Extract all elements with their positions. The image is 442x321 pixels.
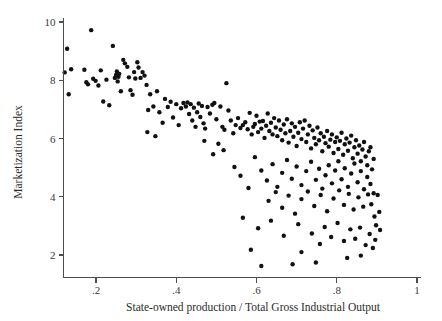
data-point (221, 148, 225, 152)
data-point (125, 65, 129, 69)
data-point (317, 167, 321, 171)
data-point (357, 143, 361, 147)
data-point (277, 118, 281, 122)
data-point (253, 155, 257, 159)
data-point (115, 79, 119, 83)
data-point (232, 165, 236, 169)
data-point (323, 141, 327, 145)
data-point (323, 225, 327, 229)
data-point (368, 145, 372, 149)
data-point (363, 154, 367, 158)
data-point (372, 214, 376, 218)
data-point (352, 145, 356, 149)
data-point (117, 72, 121, 76)
data-point (299, 183, 303, 187)
data-point (269, 121, 273, 125)
data-point (341, 153, 345, 157)
data-point (296, 222, 300, 226)
data-point (333, 140, 337, 144)
data-point (136, 65, 140, 69)
y-tick-label: 2 (50, 249, 56, 261)
data-point (338, 139, 342, 143)
y-axis-title: Marketization Index (12, 105, 24, 199)
data-point (362, 187, 366, 191)
data-point (174, 102, 178, 106)
data-point (246, 186, 250, 190)
data-point (329, 235, 333, 239)
data-point (312, 204, 316, 208)
data-point (267, 129, 271, 133)
data-point (363, 243, 367, 247)
data-point (356, 195, 360, 199)
data-point (224, 81, 228, 85)
data-point (319, 131, 323, 135)
data-point (163, 97, 167, 101)
data-point (274, 125, 278, 129)
data-point (322, 135, 326, 139)
data-point (349, 133, 353, 137)
data-point (320, 149, 324, 153)
data-point (286, 140, 290, 144)
data-point (226, 108, 230, 112)
data-point (188, 102, 192, 106)
data-point (151, 104, 155, 108)
data-point (275, 185, 279, 189)
data-point (278, 128, 282, 132)
data-point (274, 190, 278, 194)
data-point (171, 115, 175, 119)
data-point (314, 260, 318, 264)
data-point (285, 117, 289, 121)
data-point (309, 146, 313, 150)
data-point (343, 142, 347, 146)
x-tick-label: .8 (333, 284, 342, 296)
y-tick-label: 6 (50, 133, 56, 145)
data-point (310, 231, 314, 235)
data-point (256, 130, 260, 134)
data-point (249, 248, 253, 252)
data-point (346, 149, 350, 153)
data-point (266, 199, 270, 203)
data-point (192, 105, 196, 109)
data-point (327, 163, 331, 167)
data-point (195, 110, 199, 114)
data-point (335, 135, 339, 139)
data-point (256, 226, 260, 230)
data-point (331, 151, 335, 155)
data-point (291, 135, 295, 139)
data-point (262, 136, 266, 140)
data-point (355, 151, 359, 155)
data-point (201, 121, 205, 125)
data-point (307, 123, 311, 127)
data-point (367, 149, 371, 153)
data-point (269, 218, 273, 222)
data-point (354, 138, 358, 142)
plot-canvas: .2.4.6.81 246810 State-owned production … (0, 0, 442, 321)
data-point (371, 246, 375, 250)
data-point (293, 125, 297, 129)
data-point (359, 253, 363, 257)
data-point (342, 239, 346, 243)
data-point (138, 76, 142, 80)
data-point (211, 152, 215, 156)
data-point (339, 177, 343, 181)
data-point (319, 193, 323, 197)
data-point (362, 140, 366, 144)
scatter-plot-figure: .2.4.6.81 246810 State-owned production … (0, 0, 442, 321)
data-point (280, 171, 284, 175)
data-point (310, 128, 314, 132)
data-point (371, 157, 375, 161)
data-point (119, 89, 123, 93)
data-point (238, 174, 242, 178)
data-point (190, 118, 194, 122)
data-point (358, 225, 362, 229)
data-point (107, 103, 111, 107)
data-point (283, 131, 287, 135)
data-point (342, 203, 346, 207)
data-point (212, 101, 216, 105)
data-point (366, 192, 370, 196)
data-point (302, 118, 306, 122)
data-point (337, 188, 341, 192)
data-point (132, 70, 136, 74)
data-point (245, 127, 249, 131)
data-point (200, 104, 204, 108)
